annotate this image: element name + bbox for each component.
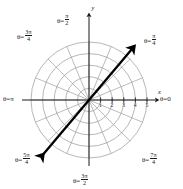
- label-theta-5pi-over-4: θ=5π4: [15, 152, 31, 165]
- x-axis-label: x: [158, 88, 161, 95]
- x-tick-3: 3: [122, 102, 125, 108]
- fraction: 7π4: [150, 152, 157, 165]
- pi-symbol: π: [10, 95, 14, 103]
- equals-sign: =: [60, 17, 64, 25]
- label-theta-3pi-over-4: θ=3π4: [17, 29, 33, 42]
- label-theta-pi-over-2: θ=π2: [57, 13, 69, 26]
- zero-value: 0: [167, 95, 171, 103]
- polar-graph-figure: θ=π2 θ=3π4 θ=π4 θ=π θ=0 θ=5π4 θ=7π4 θ=3π…: [0, 0, 183, 189]
- denominator: 2: [81, 179, 88, 186]
- y-axis-label: y: [92, 4, 95, 11]
- equals-sign: =: [18, 156, 22, 164]
- equals-sign: =: [20, 33, 24, 41]
- fraction: 5π4: [23, 152, 30, 165]
- equals-sign: =: [145, 156, 149, 164]
- fraction: π4: [152, 33, 156, 46]
- label-theta-pi: θ=π: [3, 96, 14, 103]
- x-tick-1: 1: [99, 102, 102, 108]
- denominator: 2: [65, 19, 69, 26]
- denominator: 4: [152, 39, 156, 46]
- label-theta-3pi-over-2: θ=3π2: [73, 173, 89, 186]
- x-tick-4: 4: [134, 102, 137, 108]
- x-tick-2: 2: [111, 102, 114, 108]
- denominator: 4: [25, 35, 32, 42]
- equals-sign: =: [76, 177, 80, 185]
- fraction: 3π2: [81, 173, 88, 186]
- label-theta-0: θ=0: [160, 96, 171, 103]
- denominator: 4: [150, 158, 157, 165]
- denominator: 4: [23, 158, 30, 165]
- x-tick-5: 5: [145, 102, 148, 108]
- label-theta-7pi-over-4: θ=7π4: [142, 152, 158, 165]
- label-theta-pi-over-4: θ=π4: [144, 33, 156, 46]
- equals-sign: =: [147, 37, 151, 45]
- fraction: π2: [65, 13, 69, 26]
- fraction: 3π4: [25, 29, 32, 42]
